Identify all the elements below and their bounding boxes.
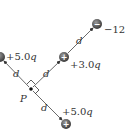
distance-label-left: d <box>13 68 19 79</box>
charge-bottom: + +5.0q <box>61 106 93 129</box>
charge-bottom-label: +5.0q <box>62 106 93 117</box>
point-p <box>29 87 33 91</box>
distance-label-bottom: d <box>41 102 47 113</box>
charge-top-right: − −12q <box>92 19 125 35</box>
charge-middle-label: +3.0q <box>70 59 101 70</box>
plus-sign-icon: + <box>63 120 70 129</box>
plus-sign-icon: + <box>61 53 68 62</box>
charge-top-right-label: −12q <box>104 24 125 35</box>
charge-middle: + +3.0q <box>59 52 101 70</box>
point-p-label: P <box>19 93 27 104</box>
distance-label-middle: d <box>43 68 49 79</box>
charge-left: +5.0q <box>0 51 37 62</box>
charge-diagram: d d d d P +5.0q + +3.0q − −12q + +5.0q <box>0 0 125 134</box>
distance-label-top: d <box>76 35 82 46</box>
charge-left-label: +5.0q <box>6 51 37 62</box>
distance-line-bottom <box>33 91 62 120</box>
minus-sign-icon: − <box>94 20 101 29</box>
